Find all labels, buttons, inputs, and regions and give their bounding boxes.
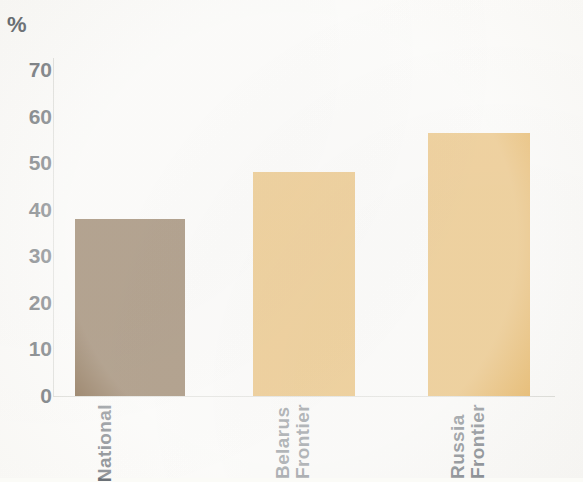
x-axis-label-line: Russia — [448, 404, 467, 479]
bar-russia-frontier — [428, 133, 530, 396]
x-axis-label-belarus-frontier: BelarusFrontier — [273, 404, 312, 479]
x-axis-label-line: Belarus — [273, 404, 292, 479]
bar-national — [75, 219, 185, 396]
bar-belarus-frontier — [253, 172, 355, 396]
bar-fill — [75, 219, 185, 396]
x-axis-label-line: National — [95, 404, 114, 482]
bar-fill — [428, 133, 530, 396]
x-axis-label-line: Frontier — [468, 404, 487, 479]
x-axis-label-line: Frontier — [293, 404, 312, 479]
x-axis-label-national: National — [95, 404, 114, 482]
bar-fill — [253, 172, 355, 396]
x-axis-label-russia-frontier: RussiaFrontier — [448, 404, 487, 479]
